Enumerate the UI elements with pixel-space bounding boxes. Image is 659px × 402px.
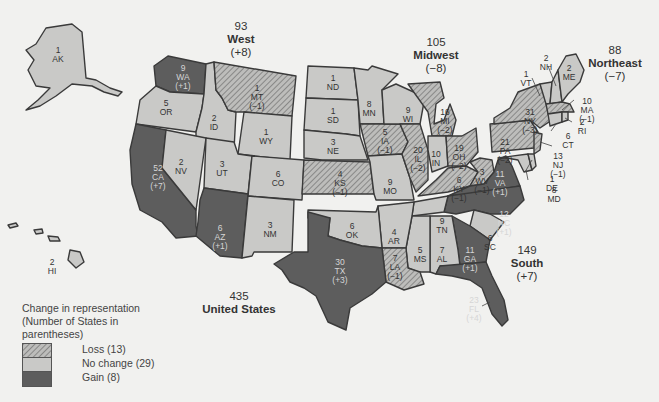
legend-title-line: (Number of States in (22, 315, 140, 328)
state-label-VA: 11VA(+1) (492, 170, 507, 197)
state-label-IA: 5IA(−1) (377, 128, 392, 155)
state-change: (−2) (437, 126, 452, 135)
state-abbr: HI (48, 267, 57, 276)
state-abbr: AK (52, 55, 63, 64)
state-change: (+1) (462, 264, 477, 273)
state-abbr: SD (327, 116, 339, 125)
state-label-PA: 21PA(−2) (497, 138, 512, 165)
state-label-IN: 10IN (431, 150, 440, 168)
region-name: United States (202, 303, 276, 316)
state-change: (+1) (212, 242, 227, 251)
state-change: (−3) (522, 126, 537, 135)
state-abbr: ND (327, 83, 339, 92)
state-change: (+1) (492, 188, 507, 197)
state-change: (+7) (150, 182, 165, 191)
state-abbr: NV (175, 167, 187, 176)
state-abbr: CO (272, 179, 285, 188)
state-label-NV: 2NV (175, 158, 187, 176)
region-name: West (227, 33, 254, 46)
state-change: (−1) (387, 272, 402, 281)
state-label-OR: 5OR (160, 99, 173, 117)
state-label-KY: 6KY(−1) (451, 176, 466, 203)
state-label-TX: 30TX(+3) (332, 258, 347, 285)
state-label-NM: 3NM (263, 221, 276, 239)
state-label-AL: 7AL (437, 246, 447, 264)
state-label-AK: 1AK (52, 46, 63, 64)
state-label-KS: 4KS(−1) (332, 170, 347, 197)
state-change: (−2) (410, 164, 425, 173)
state-label-ND: 1ND (327, 74, 339, 92)
legend-item-no-change: No change (29) (82, 357, 154, 369)
region-northeast: 88 Northeast (−7) (588, 44, 642, 83)
state-label-SC: 6SC (484, 234, 496, 252)
state-label-RI: 2RI (578, 118, 587, 136)
state-abbr: ME (563, 73, 576, 82)
legend-item-loss: Loss (13) (82, 343, 126, 355)
state-label-LA: 7LA(−1) (387, 254, 402, 281)
state-change: (−1) (474, 186, 489, 195)
legend-title-line: Change in representation (22, 302, 140, 315)
state-label-AR: 4AR (388, 228, 400, 246)
state-label-MT: 1MT(−1) (249, 84, 264, 111)
region-name: South (511, 257, 544, 270)
state-abbr: AL (437, 255, 447, 264)
state-abbr: OR (160, 108, 173, 117)
state-abbr: MN (362, 109, 375, 118)
state-label-NC: 12NC(+1) (496, 210, 511, 237)
region-name: Midwest (413, 49, 458, 62)
region-name: Northeast (588, 57, 642, 70)
state-change: (+3) (332, 276, 347, 285)
state-abbr: UT (216, 169, 227, 178)
state-abbr: NM (263, 230, 276, 239)
state-abbr: NE (327, 147, 339, 156)
state-abbr: AR (388, 237, 400, 246)
state-label-NE: 3NE (327, 138, 339, 156)
state-abbr: TN (436, 226, 447, 235)
state-abbr: WI (403, 115, 413, 124)
state-change: (−2) (497, 156, 512, 165)
state-HI[interactable] (8, 223, 84, 268)
state-TN[interactable] (412, 196, 448, 216)
state-label-VT: 1VT (521, 70, 532, 88)
legend-swatch-gain (22, 371, 52, 387)
state-abbr: MO (383, 187, 397, 196)
state-label-NH: 2NH (540, 54, 552, 72)
state-RI[interactable] (562, 112, 568, 122)
region-midwest: 105 Midwest (−8) (413, 36, 458, 75)
state-abbr: MD (547, 195, 560, 204)
state-change: (−2) (451, 162, 466, 171)
state-abbr: NH (540, 63, 552, 72)
state-abbr: WY (259, 137, 273, 146)
state-label-SD: 1SD (327, 107, 339, 125)
state-abbr: CT (562, 141, 573, 150)
state-label-GA: 11GA(+1) (462, 246, 477, 273)
state-abbr: IN (431, 159, 440, 168)
state-label-TN: 9TN (436, 217, 447, 235)
state-label-CO: 6CO (272, 170, 285, 188)
state-label-MN: 8MN (362, 100, 375, 118)
state-label-NY: 31NY(−3) (522, 108, 537, 135)
state-change: (+4) (466, 314, 481, 323)
state-label-MI: 16MI(−2) (437, 108, 452, 135)
state-abbr: SC (484, 243, 496, 252)
state-label-ME: 2ME (563, 64, 576, 82)
state-abbr: MS (414, 255, 427, 264)
state-label-CT: 6CT (562, 132, 573, 150)
state-change: (−1) (451, 194, 466, 203)
state-label-FL: 23FL(+4) (466, 296, 481, 323)
state-change: (+1) (496, 228, 511, 237)
state-label-OK: 6OK (346, 222, 358, 240)
state-label-ID: 2ID (210, 114, 219, 132)
state-change: (−1) (249, 102, 264, 111)
state-label-HI: 2HI (48, 258, 57, 276)
state-label-AZ: 6AZ(+1) (212, 224, 227, 251)
state-label-MS: 5MS (414, 246, 427, 264)
state-abbr: VT (521, 79, 532, 88)
region-west: 93 West (+8) (227, 20, 254, 59)
state-AK[interactable] (26, 24, 122, 110)
state-label-WV: 3WV(−1) (474, 168, 489, 195)
state-CT[interactable] (548, 112, 562, 126)
legend-title-line: parentheses) (22, 328, 140, 341)
state-NJ[interactable] (534, 132, 542, 154)
state-label-WI: 9WI (403, 106, 413, 124)
